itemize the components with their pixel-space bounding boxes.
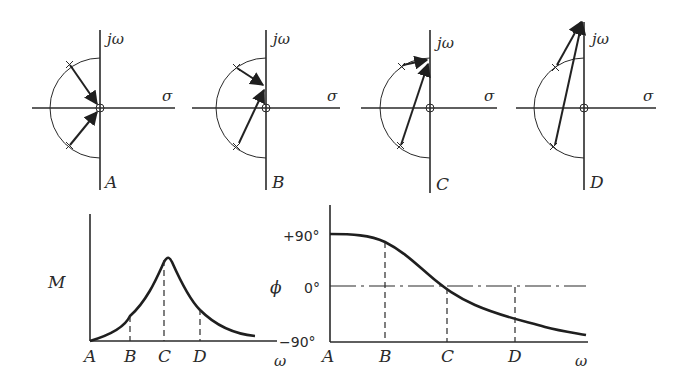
jw-label: jω [434, 34, 454, 52]
tick-zero: 0° [304, 280, 320, 296]
tick-a: A [320, 346, 334, 366]
pole-zero-plot-d: jω σ D [516, 22, 656, 192]
sigma-label: σ [484, 87, 495, 105]
tick-d: D [192, 346, 207, 366]
vector-lower-pole [555, 22, 582, 145]
phase-plot: +90° 0° −90° ϕ A B C D ω [270, 205, 588, 370]
magnitude-plot: M A B C D ω [47, 214, 286, 370]
vector-upper-pole [403, 60, 427, 65]
tick-d: D [507, 346, 522, 366]
omega-label: ω [274, 352, 286, 370]
jw-label: jω [270, 30, 290, 48]
magnitude-axis-label: M [47, 272, 66, 292]
magnitude-curve [90, 258, 255, 341]
plot-label-a: A [103, 172, 117, 192]
sigma-label: σ [327, 87, 338, 105]
tick-b: B [378, 346, 392, 366]
omega-label: ω [575, 352, 587, 370]
vector-lower-pole [401, 64, 428, 145]
tick-minus90: −90° [279, 334, 316, 350]
pole-zero-plot-b: jω σ B [192, 30, 340, 192]
resonance-diagram: jω σ A jω σ B jω σ C [0, 0, 680, 389]
vector-lower-pole [239, 90, 264, 143]
jw-label: jω [589, 30, 609, 48]
vector-lower-pole [70, 112, 97, 145]
plot-label-b: B [271, 172, 285, 192]
tick-b: B [123, 346, 137, 366]
vector-upper-pole [237, 68, 263, 85]
vector-upper-pole [70, 65, 97, 104]
sigma-label: σ [162, 87, 173, 105]
jw-label: jω [104, 30, 124, 48]
plot-label-d: D [589, 172, 604, 192]
tick-plus90: +90° [283, 228, 320, 244]
phase-curve [330, 234, 586, 335]
tick-c: C [158, 346, 171, 366]
pole-zero-plot-a: jω σ A [32, 30, 175, 192]
phase-axis-label: ϕ [270, 277, 282, 297]
tick-a: A [82, 346, 96, 366]
plot-label-c: C [436, 174, 449, 194]
sigma-label: σ [643, 87, 654, 105]
tick-c: C [441, 346, 454, 366]
pole-zero-plot-c: jω σ C [361, 30, 497, 194]
